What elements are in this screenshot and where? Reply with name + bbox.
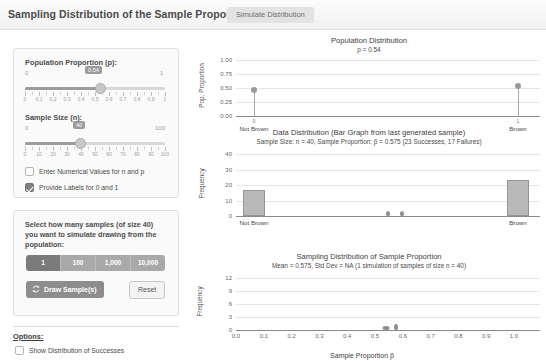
chart2-gridline (236, 185, 540, 186)
chart1-point (515, 83, 521, 89)
simulation-card: Select how many samples (of size 40) you… (13, 210, 179, 316)
sample-count-option-1000[interactable]: 1,000 (96, 255, 131, 271)
tab-simulate-distribution[interactable]: Simulate Distribution (227, 7, 314, 23)
page-title: Sampling Distribution of the Sample Prop… (8, 8, 250, 20)
chart2-center-marker (400, 211, 404, 216)
chart1-title: Population Distribution (192, 36, 546, 45)
app-root: Sampling Distribution of the Sample Prop… (0, 0, 546, 361)
reset-button[interactable]: Reset (129, 281, 165, 299)
chart1-ytick: 0.25 (202, 99, 232, 105)
checkbox-provide-labels[interactable]: Provide Labels for 0 and 1 (25, 183, 118, 192)
slider-tick-label: 0.5 (92, 96, 99, 102)
chart1-ytick: 1.00 (202, 57, 232, 63)
slider-tick-label: 50 (92, 151, 98, 157)
chart2-plot-area: Frequency 010203040Not BrownBrown (192, 152, 546, 232)
chart3-xtick: 1.0 (510, 333, 518, 339)
sample-count-button-group[interactable]: 11001,00010,000 (26, 255, 165, 271)
parameters-card: Population Proportion (p): 0 1 0.54 00.1… (13, 48, 179, 198)
chart2-category-label: Not Brown (240, 219, 269, 226)
options-title: Options: (13, 332, 43, 341)
slider-tick-label: 70 (120, 151, 126, 157)
population-proportion-slider[interactable]: 0.54 00.10.20.30.40.50.60.70.80.91 (25, 75, 165, 105)
chart3-gridline (236, 278, 540, 279)
chart2-ytick: 20 (202, 182, 232, 188)
slider-tick-label: 80 (134, 151, 140, 157)
left-control-panel: Population Proportion (p): 0 1 0.54 00.1… (0, 30, 192, 361)
chart2-gridline (236, 201, 540, 202)
slider-tick-label: 0.8 (134, 96, 141, 102)
chart1-x-axis (236, 116, 540, 117)
chart1-gridline (236, 102, 540, 103)
slider-tick-label: 90 (148, 151, 154, 157)
chart3-plot-area: Frequency 0369120.00.10.20.30.40.50.60.7… (192, 276, 546, 338)
slider-tick-label: 40 (78, 151, 84, 157)
chart2-bar (243, 190, 265, 216)
checkbox-box-numeric[interactable] (25, 167, 34, 176)
chart1-stem (254, 90, 255, 116)
chart2-category-label: Brown (509, 219, 527, 226)
simulation-instructions: Select how many samples (of size 40) you… (25, 220, 167, 250)
sample-size-slider[interactable]: 40 0102030405060708090100 (25, 130, 165, 160)
chart3-xlabel: Sample Proportion p̂ (330, 352, 394, 359)
slider-tick-label: 10 (36, 151, 42, 157)
checkbox-label-successes: Show Distribution of Successes (29, 347, 124, 354)
draw-samples-button[interactable]: Draw Sample(s) (26, 281, 104, 298)
checkbox-box-successes[interactable] (15, 346, 24, 355)
chart3-xtick: 0.2 (287, 333, 295, 339)
chart1-point (251, 87, 257, 93)
p-slider-fill (25, 87, 101, 90)
chart3-xtick: 0.9 (482, 333, 490, 339)
chart3-ytick: 6 (202, 301, 232, 307)
checkbox-label-numeric: Enter Numerical Values for n and p (39, 168, 144, 175)
chart-population-distribution: Population Distribution p = 0.54 Pop. Pr… (192, 36, 546, 128)
chart1-ytick: 0.75 (202, 71, 232, 77)
slider-tick-label: 20 (50, 151, 56, 157)
chart3-ytick: 12 (202, 275, 232, 281)
chart3-ytick: 9 (202, 288, 232, 294)
sample-count-option-100[interactable]: 100 (61, 255, 96, 271)
chart2-ytick: 30 (202, 167, 232, 173)
chart1-category-code: 1 (517, 118, 520, 124)
slider-tick-label: 0 (24, 151, 27, 157)
chart2-gridline (236, 154, 540, 155)
slider-tick-label: 0.9 (148, 96, 155, 102)
charts-panel: Population Distribution p = 0.54 Pop. Pr… (192, 30, 546, 361)
slider-tick-label: 100 (161, 151, 169, 157)
chart2-bar (507, 180, 529, 216)
chart1-gridline (236, 88, 540, 89)
chart1-ytick: 0.50 (202, 85, 232, 91)
chart-data-distribution: Data Distribution (Bar Graph from last g… (192, 128, 546, 252)
sample-count-option-10000[interactable]: 10,000 (131, 255, 165, 271)
chart3-xtick: 0.3 (315, 333, 323, 339)
chart1-plot-area: Pop. Proportion 0.000.250.500.751.000Not… (192, 58, 546, 128)
chart3-title: Sampling Distribution of Sample Proporti… (192, 252, 546, 261)
checkbox-show-distribution-of-successes[interactable]: Show Distribution of Successes (15, 346, 124, 355)
chart3-gridline (236, 291, 540, 292)
chart3-x-axis (236, 330, 540, 331)
slider-tick-label: 0.2 (50, 96, 57, 102)
slider-tick-label: 0.3 (64, 96, 71, 102)
slider-tick-label: 0.4 (78, 96, 85, 102)
chart3-xtick: 0.7 (426, 333, 434, 339)
chart2-ytick: 40 (202, 151, 232, 157)
n-slider-value-badge: 40 (73, 121, 85, 129)
checkbox-box-labels[interactable] (25, 183, 34, 192)
chart3-xtick: 0.0 (232, 333, 240, 339)
chart3-ytick: 0 (202, 327, 232, 333)
chart3-ytick: 3 (202, 314, 232, 320)
p-slider-value-badge: 0.54 (85, 66, 102, 74)
slider-tick-label: 0 (24, 96, 27, 102)
chart2-gridline (236, 170, 540, 171)
chart2-center-marker (386, 211, 390, 216)
chart1-ytick: 0.00 (202, 113, 232, 119)
chart2-ytick: 10 (202, 198, 232, 204)
chart3-xtick: 0.1 (260, 333, 268, 339)
checkbox-enter-numerical-values[interactable]: Enter Numerical Values for n and p (25, 167, 144, 176)
chart1-stem (518, 86, 519, 116)
p-slider-tick-labels: 00.10.20.30.40.50.60.70.80.91 (25, 96, 165, 104)
slider-tick-label: 60 (106, 151, 112, 157)
chart1-gridline (236, 60, 540, 61)
population-proportion-label: Population Proportion (p): (25, 58, 117, 67)
options-divider (13, 326, 179, 327)
sample-count-option-1[interactable]: 1 (26, 255, 61, 271)
